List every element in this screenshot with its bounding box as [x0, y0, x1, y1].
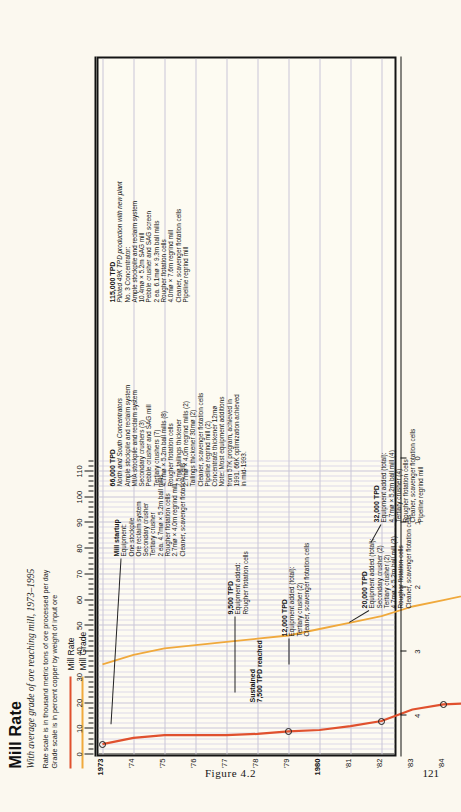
- rate-axis-tick: [88, 460, 93, 461]
- annotation-heading: 12,000 TPD: [280, 542, 287, 636]
- rate-axis-tick: [88, 722, 93, 723]
- rate-axis-tick: [88, 583, 93, 584]
- rate-axis-tick: [88, 645, 93, 646]
- annotation-leader-line: [288, 638, 289, 664]
- grade-tick-label: 3: [412, 649, 421, 653]
- rate-axis-tick: [88, 542, 93, 543]
- rate-axis-tick: [88, 563, 93, 564]
- annotation-heading: 66,000 TPD: [108, 384, 115, 486]
- rate-axis-tick: [88, 490, 93, 491]
- annotation-tpd-115000: 115,000 TPDPiloted 49K TPD production wi…: [108, 181, 188, 302]
- rate-tick-label: 70: [74, 570, 83, 578]
- grade-tick-label: 4: [412, 713, 421, 717]
- rate-axis-tick: [84, 573, 93, 574]
- annotation-heading: 32,000 TPD: [372, 428, 379, 522]
- rate-axis-tick: [88, 465, 93, 466]
- rate-axis-tick: [84, 521, 93, 522]
- scale-note-rate: Rate scale is in thousand metric tons of…: [40, 569, 49, 768]
- rate-tick-label: 80: [74, 544, 83, 552]
- annotation-tpd-32000: 32,000 TPDEquipment added (total): 4.7mø…: [372, 428, 423, 522]
- rate-axis-tick: [84, 753, 93, 754]
- rate-axis-tick: [88, 557, 93, 558]
- legend-label: Mill Rate: [65, 637, 75, 670]
- annotation-tpd-66000: 66,000 TPDNorth and South ConcentratorsA…: [108, 384, 247, 486]
- rate-axis-tick: [88, 707, 93, 708]
- rate-axis-tick: [88, 511, 93, 512]
- page-subtitle: With average grade of ore reaching mill,…: [25, 568, 35, 768]
- scale-note: Rate scale is in thousand metric tons of…: [40, 569, 58, 768]
- annotation-heading: 115,000 TPD: [108, 181, 115, 302]
- data-point-marker[interactable]: [99, 740, 106, 747]
- rate-axis-tick: [88, 619, 93, 620]
- rate-axis-tick: [88, 629, 93, 630]
- rate-axis-tick: [84, 650, 93, 651]
- rate-tick-label: 0: [74, 752, 83, 756]
- book-page: Mill Rate With average grade of ore reac…: [0, 0, 461, 812]
- grade-tick-label: 0: [412, 456, 421, 460]
- rate-axis-tick: [88, 532, 93, 533]
- annotation-heading: 20,000 TPD: [360, 514, 367, 608]
- rate-axis-tick: [88, 655, 93, 656]
- annotation-heading: Sustained 7,500 TPD reached: [248, 640, 263, 702]
- rate-axis-tick: [88, 743, 93, 744]
- data-point-marker[interactable]: [440, 700, 447, 707]
- figure-caption: Figure 4.2: [0, 767, 461, 779]
- annotation-body: Equipment added (total): Tertiary crushe…: [287, 542, 309, 636]
- rate-axis-tick: [88, 640, 93, 641]
- rate-axis-tick: [88, 588, 93, 589]
- rate-axis-tick: [84, 727, 93, 728]
- rate-axis-tick: [88, 681, 93, 682]
- rate-axis-tick: [88, 537, 93, 538]
- data-point-marker[interactable]: [378, 717, 385, 724]
- scale-note-grade: Grade scale is in percent copper by weig…: [49, 569, 58, 768]
- grade-axis-tick: [400, 714, 406, 715]
- rate-tick-label: 110: [74, 465, 83, 477]
- rate-axis-tick: [84, 599, 93, 600]
- rate-axis-tick: [88, 593, 93, 594]
- annotation-body: Ample stockpile and reclaim system MI/A …: [123, 384, 247, 486]
- rate-axis-tick: [84, 702, 93, 703]
- grade-tick-label: 2: [412, 585, 421, 589]
- rate-axis-tick: [88, 552, 93, 553]
- rate-axis-tick: [88, 696, 93, 697]
- rate-axis-tick: [88, 501, 93, 502]
- page-number: 121: [423, 767, 440, 779]
- annotation-subheading: North and South Concentrators: [115, 384, 122, 486]
- rate-axis-tick: [84, 676, 93, 677]
- rate-axis-tick: [88, 738, 93, 739]
- rate-axis-tick: [88, 635, 93, 636]
- rate-axis-tick: [88, 604, 93, 605]
- rate-tick-label: 10: [74, 724, 83, 732]
- data-point-marker[interactable]: [285, 727, 292, 734]
- annotation-leader-line: [234, 616, 235, 692]
- grade-tick-label: 1: [412, 520, 421, 524]
- rate-axis-tick: [88, 480, 93, 481]
- rate-axis-tick: [88, 609, 93, 610]
- rate-axis-tick: [84, 624, 93, 625]
- rate-tick-label: 50: [74, 621, 83, 629]
- rate-axis-tick: [88, 732, 93, 733]
- plot-area: Mill startupEquipment: One stockpile Ore…: [96, 56, 396, 756]
- annotation-heading: 9,500 TPD: [226, 551, 233, 614]
- annotation-body: Equipment added: Rougher flotation cells: [233, 551, 248, 614]
- grade-axis-tick: [400, 586, 406, 587]
- rate-axis-tick: [88, 506, 93, 507]
- rate-axis-tick: [88, 671, 93, 672]
- grade-axis-tick: [400, 650, 406, 651]
- annotation-body: Equipment added (total): Secondary crush…: [367, 514, 411, 608]
- rate-axis-tick: [88, 614, 93, 615]
- rate-axis-tick: [88, 578, 93, 579]
- annotation-subheading: Piloted 49K TPD production with new plan…: [115, 181, 122, 302]
- grade-axis-tick: [400, 521, 406, 522]
- annotation-sustained-7500: Sustained 7,500 TPD reached: [248, 640, 263, 702]
- rate-tick-label: 100: [74, 490, 83, 503]
- rate-axis-tick: [84, 470, 93, 471]
- rate-tick-label: 90: [74, 518, 83, 526]
- legend-swatch-icon: [69, 676, 71, 768]
- rate-axis-tick: [88, 485, 93, 486]
- rate-tick-label: 30: [74, 673, 83, 681]
- rate-tick-label: 20: [74, 698, 83, 706]
- annotation-body: No. 3 Concentrator: Ample stockpile and …: [123, 181, 189, 302]
- rate-axis-tick: [84, 496, 93, 497]
- annotation-tpd-12000: 12,000 TPDEquipment added (total): Terti…: [280, 542, 309, 636]
